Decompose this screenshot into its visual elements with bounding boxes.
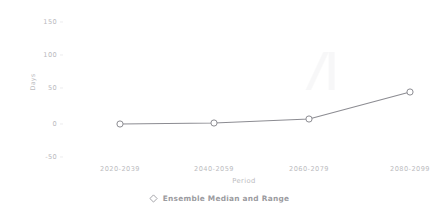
- open-diamond-icon: [149, 194, 158, 203]
- series-line: [120, 92, 410, 124]
- x-tick-label-3: 2060-2079: [264, 165, 354, 173]
- chart-figure: 150 100 50 0 -50 Days: [0, 0, 438, 211]
- data-point-2080-2099: [407, 89, 413, 95]
- x-tick-label-2: 2040-2059: [169, 165, 259, 173]
- y-tick-label--50: -50: [23, 153, 57, 161]
- y-tick-label-150: 150: [23, 18, 57, 26]
- line-series-svg: [63, 14, 425, 162]
- legend-label: Ensemble Median and Range: [163, 194, 289, 203]
- data-point-2060-2079: [306, 116, 312, 122]
- chart-legend: Ensemble Median and Range: [0, 194, 438, 203]
- y-tick-label-100: 100: [23, 51, 57, 59]
- y-tick-label-0: 0: [23, 120, 57, 128]
- y-tick-marks: [60, 22, 63, 157]
- y-axis: 150 100 50 0 -50 Days: [19, 0, 57, 211]
- x-tick-label-4: 2080-2099: [365, 165, 438, 173]
- x-axis: 2020-2039 2040-2059 2060-2079 2080-2099: [63, 165, 425, 177]
- plot-area: [63, 14, 425, 162]
- data-point-2020-2039: [117, 121, 123, 127]
- legend-entry-ensemble-median: Ensemble Median and Range: [149, 194, 289, 203]
- y-axis-title: Days: [29, 62, 37, 102]
- x-tick-label-1: 2020-2039: [75, 165, 165, 173]
- x-axis-title: Period: [63, 177, 425, 185]
- data-point-2040-2059: [211, 120, 217, 126]
